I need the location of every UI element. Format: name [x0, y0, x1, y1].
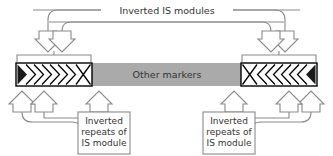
top-arrow-inner-left-head [49, 31, 75, 52]
bottom-right-label-line3: IS module [207, 138, 252, 148]
bottom-arrow-right-1-head [298, 91, 324, 112]
is-module-left [16, 63, 92, 86]
bottom-arrow-right-1-path [251, 112, 311, 140]
bottom-arrow-left-1-path [22, 112, 82, 140]
top-arrow-inner-right-path [49, 22, 271, 36]
center-bar-label: Other markers [133, 69, 202, 80]
is-module-right [241, 63, 317, 86]
diagram-canvas: Inverted IS modules Other markers [0, 0, 333, 156]
bracket-left [17, 51, 91, 62]
bottom-arrow-right-2-head [276, 91, 302, 112]
bottom-right-label-line1: Inverted [210, 116, 248, 126]
bottom-arrow-left-3-head [86, 91, 112, 112]
top-arrow-inner-left-path [62, 22, 284, 36]
bottom-arrow-right-3-head [221, 91, 247, 112]
bottom-left-label-line1: Inverted [85, 116, 123, 126]
bracket-right [242, 51, 316, 62]
bottom-left-label-line2: repeats of [81, 127, 127, 137]
bottom-arrow-left-1-head [9, 91, 35, 112]
top-label-text: Inverted IS modules [119, 5, 214, 16]
bottom-left-label-box: Inverted repeats of IS module [78, 112, 130, 154]
bottom-left-label-line3: IS module [82, 138, 127, 148]
module-brackets [17, 51, 316, 62]
diagram-figure: Inverted IS modules Other markers [0, 0, 333, 156]
bottom-arrow-left-2-head [31, 91, 57, 112]
bottom-right-label-line2: repeats of [206, 127, 252, 137]
bottom-right-label-box: Inverted repeats of IS module [203, 112, 255, 154]
top-arrow-inner-right-head [258, 31, 284, 52]
